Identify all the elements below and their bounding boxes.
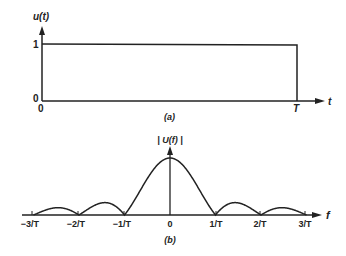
figure: u(t) 1 0 0 T t (a) | U(f) | −3/T −2/T −1… [0,0,346,256]
plot-a-xtick-0: 0 [38,103,44,114]
plot-b-y-arrow-icon [167,146,173,155]
plot-b-xtick-3: 3/T [298,219,312,229]
plot-a-xtick-T: T [293,103,300,114]
plot-b-xlabel: f [326,209,331,221]
plot-b-xtick-1: 1/T [209,219,223,229]
plot-b-x-arrow-icon [312,212,322,218]
plot-a-xlabel: t [328,96,332,107]
plot-a-ytick-1: 1 [33,39,39,50]
plot-a-y-arrow-icon [39,26,45,35]
plot-a-caption: (a) [164,112,175,122]
plot-b-xtick-neg1: −1/T [113,219,132,229]
plot-b-xtick-2: 2/T [253,219,267,229]
plot-a-pulse-line [42,44,297,101]
plot-b-xtick-neg3: −3/T [21,219,40,229]
plot-a-ylabel: u(t) [33,11,50,22]
plot-b-caption: (b) [164,235,176,245]
plot-b-xtick-neg2: −2/T [67,219,86,229]
plot-b: | U(f) | −3/T −2/T −1/T 0 1/T 2/T 3/T f … [21,135,331,245]
plot-a: u(t) 1 0 0 T t (a) [33,11,332,122]
plot-b-ylabel: | U(f) | [157,135,183,145]
plot-a-x-arrow-icon [315,98,325,104]
plot-b-xtick-0: 0 [167,219,172,229]
